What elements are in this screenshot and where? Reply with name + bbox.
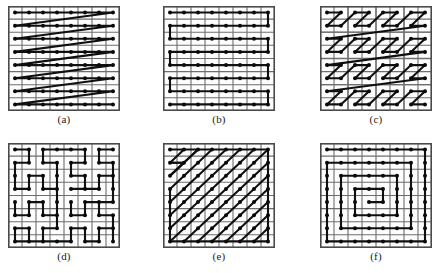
panel-a: (a) (8, 6, 120, 111)
panel-e: (e) (163, 143, 275, 248)
caption-e: (e) (163, 250, 275, 262)
panel-b-diagram (163, 6, 275, 111)
panel-d-diagram (8, 143, 120, 248)
figure-container: (a) (0, 0, 446, 273)
panel-f-diagram (320, 143, 432, 248)
caption-c: (c) (320, 113, 432, 125)
caption-f: (f) (320, 250, 432, 262)
caption-a: (a) (8, 113, 120, 125)
caption-d: (d) (8, 250, 120, 262)
panel-f: (f) (320, 143, 432, 248)
panel-c: (c) (320, 6, 432, 111)
panel-b: (b) (163, 6, 275, 111)
panel-d: (d) (8, 143, 120, 248)
panel-e-diagram (163, 143, 275, 248)
panel-a-diagram (8, 6, 120, 111)
caption-b: (b) (163, 113, 275, 125)
panel-c-diagram (320, 6, 432, 111)
